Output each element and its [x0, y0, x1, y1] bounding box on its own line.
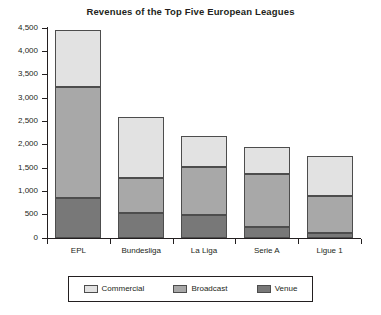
legend-swatch-icon [84, 285, 98, 293]
bar-segment-broadcast [307, 196, 353, 233]
y-axis-tick [42, 214, 47, 215]
bar-segment-commercial [181, 136, 227, 167]
y-axis-label: 4,500 [2, 24, 38, 32]
y-axis-tick [42, 98, 47, 99]
legend-item: Broadcast [173, 285, 227, 293]
y-axis-label: 3,500 [2, 70, 38, 78]
bar-group [55, 28, 101, 238]
y-axis-label: 1,000 [2, 187, 38, 195]
y-axis-line [47, 27, 48, 239]
bar-group [181, 28, 227, 238]
x-axis-category-label: Bundesliga [110, 247, 173, 255]
legend-label: Venue [275, 285, 298, 293]
legend-label: Broadcast [191, 285, 227, 293]
bar-segment-venue [181, 215, 227, 238]
x-axis-tick [47, 239, 48, 244]
x-axis-category-label: EPL [47, 247, 110, 255]
bar-segment-broadcast [55, 87, 101, 198]
y-axis-label: 1,500 [2, 164, 38, 172]
chart-title: Revenues of the Top Five European League… [0, 6, 381, 17]
y-axis-tick [42, 51, 47, 52]
y-axis-label: 500 [2, 210, 38, 218]
bar-segment-venue [55, 198, 101, 238]
bar-segment-broadcast [244, 174, 290, 227]
y-axis-label: 4,000 [2, 47, 38, 55]
x-axis-category-label: Serie A [235, 247, 298, 255]
y-axis-label: 0 [2, 234, 38, 242]
y-axis-tick [42, 168, 47, 169]
chart-legend: CommercialBroadcastVenue [68, 276, 313, 302]
stacked-bar-chart: Revenues of the Top Five European League… [0, 0, 381, 315]
bar-segment-commercial [55, 30, 101, 87]
legend-item: Venue [257, 285, 298, 293]
bar-segment-venue [307, 233, 353, 238]
bar-segment-commercial [118, 117, 164, 178]
legend-label: Commercial [102, 285, 145, 293]
y-axis-label: 2,500 [2, 117, 38, 125]
x-axis-tick [110, 239, 111, 244]
y-axis-tick [42, 74, 47, 75]
bar-segment-broadcast [181, 167, 227, 215]
y-axis-tick [42, 191, 47, 192]
bar-group [244, 28, 290, 238]
x-axis-tick [298, 239, 299, 244]
bar-segment-venue [118, 213, 164, 238]
y-axis-tick [42, 28, 47, 29]
bar-segment-commercial [244, 147, 290, 175]
legend-swatch-icon [173, 285, 187, 293]
x-axis-category-label: La Liga [173, 247, 236, 255]
x-axis-tick [235, 239, 236, 244]
y-axis-label: 3,000 [2, 94, 38, 102]
bar-group [118, 28, 164, 238]
x-axis-line [47, 238, 361, 239]
bar-segment-commercial [307, 156, 353, 196]
bar-group [307, 28, 353, 238]
legend-swatch-icon [257, 285, 271, 293]
x-axis-tick [361, 239, 362, 244]
x-axis-tick [173, 239, 174, 244]
x-axis-category-label: Ligue 1 [298, 247, 361, 255]
bar-segment-broadcast [118, 178, 164, 213]
bar-segment-venue [244, 227, 290, 238]
y-axis-label: 2,000 [2, 140, 38, 148]
y-axis-tick [42, 144, 47, 145]
legend-item: Commercial [84, 285, 145, 293]
y-axis-tick [42, 121, 47, 122]
